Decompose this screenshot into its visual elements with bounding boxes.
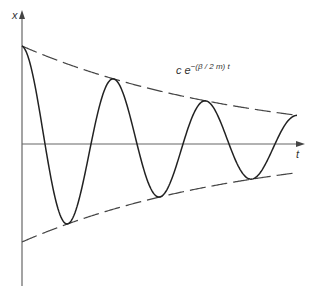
envelope-prefix: c e bbox=[176, 64, 191, 76]
t-axis-arrow-icon bbox=[296, 141, 305, 147]
lower-envelope bbox=[22, 173, 297, 242]
oscillation-curve bbox=[22, 46, 297, 224]
damped-oscillation-diagram bbox=[0, 0, 316, 298]
x-axis-arrow-icon bbox=[19, 10, 25, 19]
envelope-label: c e−(β / 2 m) t bbox=[176, 62, 230, 76]
x-axis-label: t bbox=[296, 148, 299, 160]
envelope-exponent: −(β / 2 m) t bbox=[191, 62, 230, 71]
y-axis-label: x bbox=[12, 9, 18, 21]
upper-envelope bbox=[22, 46, 297, 115]
